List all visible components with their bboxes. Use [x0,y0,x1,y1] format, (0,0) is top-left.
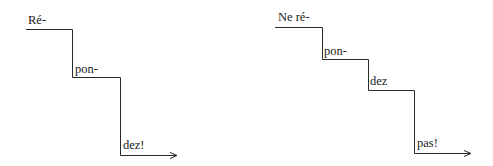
syllable-label: Ré- [28,14,46,27]
syllable-label: dez! [123,139,145,152]
syllable-label: pas! [417,137,438,150]
syllable-label: dez [370,75,387,88]
syllable-label: Ne ré- [278,11,310,24]
right-staircase-path [275,28,470,154]
syllable-label: pon- [324,45,347,58]
left-staircase-path [26,30,176,156]
left-staircase [26,30,177,159]
syllable-label: pon- [75,63,98,76]
intonation-staircase-diagrams: Ré- pon- dez! Ne ré- pon- dez pas! [0,0,493,166]
right-staircase [275,28,471,157]
